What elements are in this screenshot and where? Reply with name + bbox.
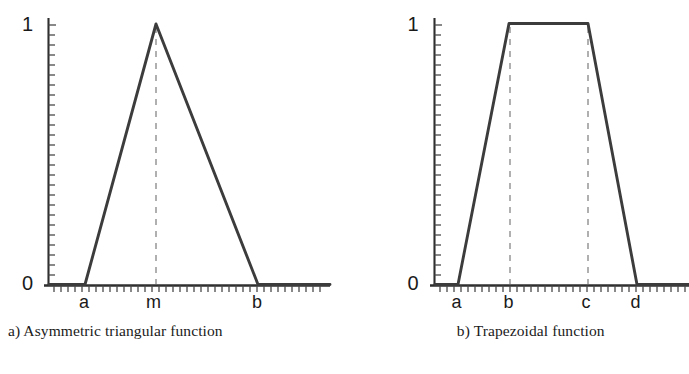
x-label-c-b: c [582,292,591,313]
x-label-d-b: d [631,292,641,313]
membership-function-figure: 1 0 a m b a) Asymmetric triangular funct… [0,0,689,374]
triangular-curve [49,24,330,285]
y-label-top-b: 1 [408,13,419,36]
x-label-b-a: b [252,292,262,313]
x-label-m-a: m [146,292,161,313]
y-label-bottom-a: 0 [22,272,33,295]
triangular-chart-svg [0,0,345,320]
y-label-top-a: 1 [22,13,33,36]
x-label-b-b: b [504,292,514,313]
plot-area-triangular: 1 0 a m b [0,0,345,320]
caption-panel-b: b) Trapezoidal function [345,322,689,340]
panel-trapezoidal: 1 0 a b c d b) Trapezoidal function [345,0,689,374]
trapezoidal-curve [435,24,689,285]
y-axis-ticks [434,25,442,275]
x-label-a-b: a [452,292,462,313]
y-axis-ticks [49,25,57,275]
caption-panel-a: a) Asymmetric triangular function [0,322,353,340]
trapezoidal-chart-svg [345,0,689,320]
x-label-a-a: a [79,292,89,313]
panel-asymmetric-triangular: 1 0 a m b a) Asymmetric triangular funct… [0,0,345,374]
plot-area-trapezoidal: 1 0 a b c d [345,0,689,320]
y-label-bottom-b: 0 [408,272,419,295]
